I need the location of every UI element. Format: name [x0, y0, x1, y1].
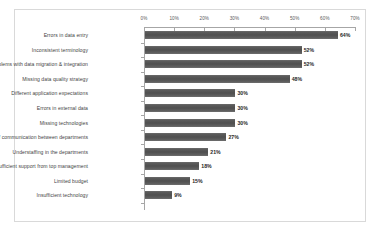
bar-value-label: 9% [174, 192, 182, 198]
bar-value-label: 52% [304, 61, 314, 67]
category-label: Missing data quality strategy [22, 76, 88, 82]
category-label: Errors in data entry [44, 32, 88, 38]
bar [145, 75, 290, 83]
bar [145, 162, 199, 170]
x-axis-tick-label: 10% [169, 16, 179, 21]
x-axis-tick-label: 20% [200, 16, 210, 21]
category-label: Insufficient support from top management [0, 163, 88, 169]
category-label: Understaffing in the departments [13, 149, 88, 155]
bar-value-label: 48% [292, 76, 302, 82]
bar-value-label: 30% [237, 120, 247, 126]
category-label: Inconsistent terminology [32, 47, 88, 53]
category-label: Errors in external data [37, 105, 88, 111]
category-label: Limited budget [54, 178, 88, 184]
category-label: Different application expectations [11, 90, 88, 96]
x-axis-tick-label: 70% [350, 16, 360, 21]
x-axis-tick-label: 40% [260, 16, 270, 21]
bar-value-label: 30% [237, 105, 247, 111]
bar-value-label: 18% [201, 163, 211, 169]
category-label: Lack of communication between department… [0, 134, 88, 140]
bar-chart-figure: 0%10%20%30%40%50%60%70% Errors in data e… [14, 9, 366, 222]
category-label: Problems with data migration & integrati… [0, 61, 88, 67]
x-axis-tick-label: 0% [141, 16, 148, 21]
x-axis-tick-label: 50% [290, 16, 300, 21]
bar [145, 119, 235, 127]
bar-row: Limited budget15% [15, 174, 365, 189]
bar-row: Different application expectations30% [15, 86, 365, 101]
bar [145, 31, 338, 39]
y-axis-tick [141, 203, 144, 204]
bar-row: Understaffing in the departments21% [15, 144, 365, 159]
bar-value-label: 30% [237, 90, 247, 96]
bar [145, 177, 190, 185]
bar-value-label: 21% [210, 149, 220, 155]
bar-value-label: 15% [192, 178, 202, 184]
x-axis-tick-label: 60% [320, 16, 330, 21]
bar-row: Missing technologies30% [15, 115, 365, 130]
bar-row: Problems with data migration & integrati… [15, 57, 365, 72]
bar [145, 133, 226, 141]
bar-row: Insufficient support from top management… [15, 159, 365, 174]
bar [145, 104, 235, 112]
category-label: Missing technologies [40, 120, 88, 126]
bar-value-label: 64% [340, 32, 350, 38]
bar [145, 46, 302, 54]
bar-row: Missing data quality strategy48% [15, 72, 365, 87]
bar-row: Lack of communication between department… [15, 130, 365, 145]
bar-value-label: 27% [228, 134, 238, 140]
bar-row: Errors in external data30% [15, 101, 365, 116]
bar [145, 89, 235, 97]
bar-row: Errors in data entry64% [15, 28, 365, 43]
plot-area: 0%10%20%30%40%50%60%70% Errors in data e… [15, 10, 365, 221]
x-axis-tick-label: 30% [230, 16, 240, 21]
bar [145, 60, 302, 68]
category-label: Insufficient technology [37, 192, 88, 198]
bar-row: Insufficient technology9% [15, 188, 365, 203]
bar-value-label: 52% [304, 47, 314, 53]
bar [145, 148, 208, 156]
bar [145, 191, 172, 199]
bar-row: Inconsistent terminology52% [15, 43, 365, 58]
